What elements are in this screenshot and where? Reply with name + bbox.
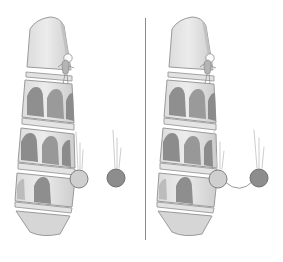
falling-balls-right — [209, 130, 268, 188]
left-scene — [0, 0, 141, 262]
arch — [163, 133, 180, 162]
arch — [21, 133, 38, 162]
arch — [47, 89, 64, 119]
tower-right — [157, 17, 217, 236]
arch — [169, 87, 186, 117]
tower-base — [158, 211, 212, 236]
motion-streaks-heavy-left — [113, 130, 121, 168]
panel-left-separate-balls — [0, 0, 141, 262]
arch — [184, 136, 201, 165]
panel-right-tied-balls — [142, 0, 283, 262]
tower-left — [15, 17, 75, 236]
tower-base — [16, 211, 70, 236]
arch — [27, 87, 44, 117]
falling-balls-left — [70, 130, 125, 188]
arch — [42, 136, 59, 165]
ball-heavy-left — [107, 169, 125, 187]
ball-heavy-right — [250, 169, 268, 187]
right-scene — [142, 0, 283, 262]
ball-light-right — [209, 170, 227, 188]
motion-streaks-light-left — [76, 132, 83, 169]
observer-body — [204, 60, 211, 74]
motion-streaks-heavy-right — [254, 130, 264, 168]
observer-body — [62, 60, 69, 74]
physics-illustration — [0, 0, 283, 262]
ball-light-left — [70, 170, 88, 188]
tether-cord — [225, 181, 253, 188]
arch — [189, 89, 206, 119]
